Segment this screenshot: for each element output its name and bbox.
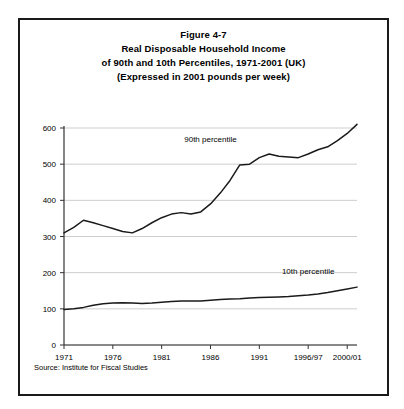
x-tick-label-1986: 1986: [202, 353, 220, 360]
annotation-90th-percentile: 90th percentile: [184, 135, 237, 144]
x-tick-label-1971: 1971: [55, 353, 73, 360]
chart-plot-area: 0100200300400500600 19711976198119861991…: [20, 92, 391, 360]
y-tick-label-300: 300: [43, 233, 57, 242]
x-tick-label-2000/01: 2000/01: [333, 353, 362, 360]
title-line-4: (Expressed in 2001 pounds per week): [20, 70, 387, 84]
annotation-10th-percentile: 10th percentile: [282, 267, 335, 276]
title-line-3: of 90th and 10th Percentiles, 1971-2001 …: [20, 56, 387, 70]
title-line-2: Real Disposable Household Income: [20, 42, 387, 56]
y-tick-label-200: 200: [43, 269, 57, 278]
y-tick-label-500: 500: [43, 160, 57, 169]
figure-frame: Figure 4-7 Real Disposable Household Inc…: [18, 18, 389, 396]
y-tick-label-100: 100: [43, 305, 57, 314]
y-tick-label-600: 600: [43, 124, 57, 133]
title-line-1: Figure 4-7: [20, 28, 387, 42]
y-tick-label-400: 400: [43, 196, 57, 205]
x-tick-label-1981: 1981: [153, 353, 171, 360]
x-axis-tick-labels: 197119761981198619911996/972000/01: [55, 353, 362, 360]
y-tick-label-0: 0: [52, 341, 57, 350]
source-note: Source: Institute for Fiscal Studies: [34, 363, 148, 372]
x-tick-label-1991: 1991: [250, 353, 268, 360]
gridlines-group: [60, 128, 357, 345]
x-tick-label-1996/97: 1996/97: [294, 353, 323, 360]
figure-title-block: Figure 4-7 Real Disposable Household Inc…: [20, 28, 387, 84]
y-axis-tick-labels: 0100200300400500600: [43, 124, 57, 350]
series-line-10th-percentile: [64, 287, 357, 309]
line-chart: 0100200300400500600 19711976198119861991…: [20, 92, 391, 360]
x-axis-tick-marks: [64, 345, 347, 349]
x-tick-label-1976: 1976: [104, 353, 122, 360]
